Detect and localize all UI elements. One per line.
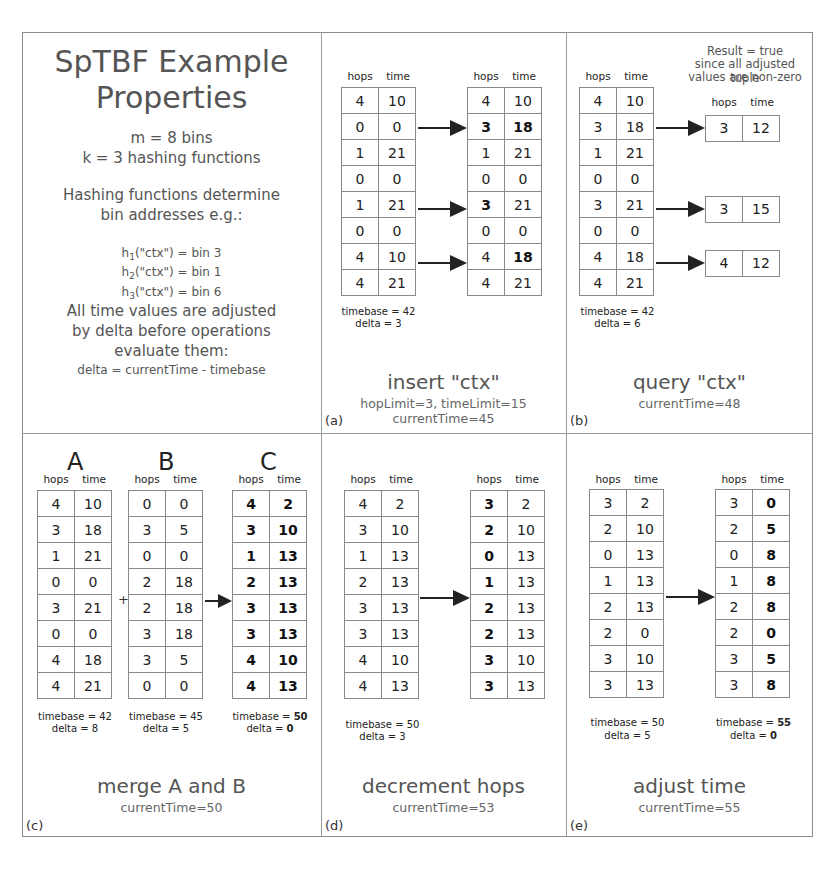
hops-cell: 0 [580,218,617,244]
arrow-head [450,120,467,136]
time-cell: 10 [617,88,654,114]
panel-label-b: (b) [570,413,588,428]
time-cell: 10 [627,646,664,672]
time-header: time [508,473,546,485]
time-cell: 18 [505,114,542,140]
table-row: 213 [233,569,307,595]
hops-cell: 0 [468,166,505,192]
hops-cell: 3 [233,621,270,647]
query-result-tuple: 315 [705,196,780,223]
hops-cell: 4 [38,673,75,699]
time-cell: 21 [505,140,542,166]
time-cell: 13 [270,673,307,699]
hash-description-line1: Hashing functions determine [22,186,321,205]
hops-cell: 0 [590,542,627,568]
time-cell: 12 [743,250,780,276]
table-row: 00 [129,543,203,569]
time-cell: 5 [753,646,790,672]
hops-header: hops [715,473,753,485]
table-row: 00 [342,166,416,192]
table-row: 00 [580,166,654,192]
hops-cell: 4 [345,491,382,517]
table-row: 210 [590,516,664,542]
hops-cell: 4 [468,88,505,114]
hops-header: hops [467,70,505,82]
hops-cell: 4 [468,244,505,270]
time-header: time [743,96,781,108]
decrement-title: decrement hops [321,774,566,798]
table-row: 412 [706,250,780,276]
time-cell: 10 [270,647,307,673]
table-row: 318 [580,114,654,140]
table-a-timebase: timebase = 42 [25,711,125,723]
merge-table-c: 42310113213313313410413 [232,490,307,699]
hops-cell: 3 [129,621,166,647]
decrement-after-table: 32210013113213213310313 [470,490,545,699]
time-cell: 0 [753,620,790,646]
time-cell: 21 [505,192,542,218]
hops-cell: 3 [471,647,508,673]
hops-header: hops [579,70,617,82]
hops-cell: 3 [580,192,617,218]
decrement-timebase: timebase = 50 [325,719,440,731]
table-row: 410 [345,647,419,673]
hops-cell: 0 [129,543,166,569]
arrow-icon [656,201,705,217]
time-cell: 18 [166,569,203,595]
time-header: time [753,473,791,485]
hops-cell: 4 [38,647,75,673]
table-row: 410 [342,88,416,114]
hops-cell: 1 [342,140,379,166]
time-cell: 21 [379,270,416,296]
merge-table-b: 0035002182183183500 [128,490,203,699]
adjust-after-table: 3025081828203538 [715,489,790,698]
hops-cell: 3 [716,490,753,516]
time-cell: 13 [627,672,664,698]
time-cell: 0 [379,218,416,244]
arrow-head [688,201,705,217]
hops-cell: 2 [129,595,166,621]
hash-example: h2("ctx") = bin 1 [22,265,321,284]
panel-label-c: (c) [26,818,43,833]
hops-cell: 3 [345,621,382,647]
time-cell: 0 [166,543,203,569]
table-row: 20 [716,620,790,646]
time-header: time [166,473,204,485]
timebase-value: 50 [294,711,308,722]
timebase-label: timebase = [716,717,777,728]
time-cell: 0 [505,166,542,192]
table-row: 421 [580,270,654,296]
time-cell: 8 [753,568,790,594]
table-row: 00 [468,218,542,244]
hops-cell: 2 [716,620,753,646]
table-row: 121 [38,543,112,569]
time-header: time [382,473,420,485]
time-header: time [505,70,543,82]
hops-cell: 2 [590,594,627,620]
hops-cell: 3 [129,647,166,673]
hops-cell: 1 [471,569,508,595]
table-row: 00 [342,114,416,140]
divider-horizontal [22,433,813,434]
hops-cell: 4 [345,673,382,699]
panel-label-a: (a) [325,413,343,428]
properties-title-line1: SpTBF Example [22,44,321,80]
hops-cell: 2 [716,594,753,620]
decrement-before-table: 42310113213313313410413 [344,490,419,699]
hops-cell: 3 [716,672,753,698]
table-row: 410 [580,88,654,114]
table-row: 313 [233,595,307,621]
hash-expression: ("ctx") = bin 6 [135,285,222,299]
delta-value: 0 [287,723,294,734]
hops-cell: 3 [706,196,743,222]
plus-sign: + [118,592,129,607]
time-cell: 0 [75,621,112,647]
table-row: 418 [580,244,654,270]
decrement-current-time: currentTime=53 [321,800,566,816]
adjust-arrow [666,589,715,605]
table-row: 00 [468,166,542,192]
time-cell: 18 [75,647,112,673]
table-row: 318 [468,114,542,140]
table-row: 318 [129,621,203,647]
time-cell: 13 [382,569,419,595]
